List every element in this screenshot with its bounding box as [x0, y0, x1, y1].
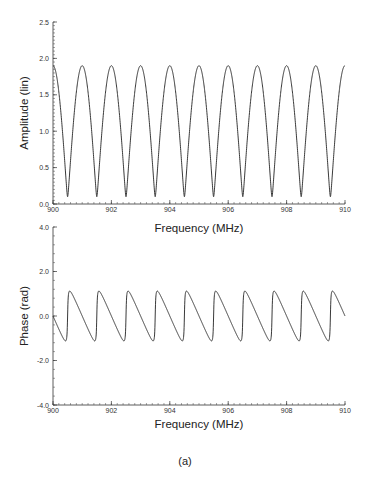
x-tick-label: 904: [164, 407, 176, 414]
phase-chart: -4.0-2.00.02.04.0900902904906908910 Freq…: [18, 224, 351, 431]
x-tick-label: 900: [47, 206, 59, 213]
figure-caption: (a): [0, 455, 370, 467]
x-tick-label: 906: [222, 206, 234, 213]
y-tick-label: 2.0: [39, 55, 49, 62]
x-tick-label: 908: [281, 407, 293, 414]
amplitude-y-label: Amplitude (lin): [18, 76, 30, 150]
x-tick-label: 900: [47, 407, 59, 414]
phase-x-label: Frequency (MHz): [155, 418, 244, 430]
y-tick-label: 1.5: [39, 91, 49, 98]
y-tick-label: 2.5: [39, 19, 49, 26]
y-tick-label: 4.0: [39, 224, 49, 231]
phase-y-label: Phase (rad): [18, 286, 30, 346]
x-tick-label: 904: [164, 206, 176, 213]
amplitude-chart: 0.00.51.01.52.02.5900902904906908910 Fre…: [18, 19, 351, 235]
x-tick-label: 910: [339, 206, 351, 213]
figure: 0.00.51.01.52.02.5900902904906908910 Fre…: [0, 0, 370, 497]
x-tick-label: 908: [281, 206, 293, 213]
amplitude-curve: [53, 66, 345, 197]
x-tick-label: 902: [106, 407, 118, 414]
phase-curve: [53, 291, 345, 341]
y-tick-label: 2.0: [39, 268, 49, 275]
y-tick-label: 0.0: [39, 313, 49, 320]
y-tick-label: 1.0: [39, 128, 49, 135]
amplitude-axes: [53, 22, 345, 204]
amplitude-tick-labels: 0.00.51.01.52.02.5900902904906908910: [39, 19, 351, 214]
x-tick-label: 902: [106, 206, 118, 213]
y-tick-label: 0.5: [39, 164, 49, 171]
amplitude-x-label: Frequency (MHz): [155, 222, 244, 234]
phase-tick-labels: -4.0-2.00.02.04.0900902904906908910: [37, 224, 351, 415]
x-tick-label: 906: [222, 407, 234, 414]
y-tick-label: -2.0: [37, 357, 49, 364]
x-tick-label: 910: [339, 407, 351, 414]
